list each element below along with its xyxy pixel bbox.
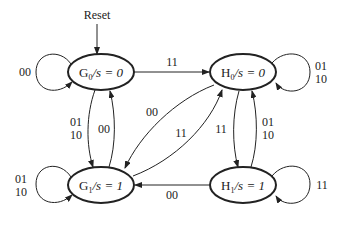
g0-output: /s = 0 [91, 65, 123, 80]
state-h0: H0/s = 0 [210, 54, 276, 90]
g0-self-label: 00 [19, 65, 31, 79]
g0-to-g1-arrow [88, 90, 95, 167]
h0-to-g1-label: 00 [146, 105, 158, 119]
g0-to-g1-label-b: 10 [70, 128, 82, 142]
h0-self-label-b: 10 [315, 72, 327, 86]
h0-to-h1-arrow [234, 91, 239, 167]
g0-name: G [79, 65, 88, 80]
h1-output: /s = 1 [233, 178, 264, 193]
h1-to-h0-label-a: 01 [262, 115, 274, 129]
h0-self-label-a: 01 [315, 59, 327, 73]
svg-text:G0/s = 0: G0/s = 0 [79, 65, 123, 82]
svg-text:H0/s = 0: H0/s = 0 [221, 65, 265, 82]
h0-output: /s = 0 [233, 65, 265, 80]
h1-to-g1-label: 00 [166, 188, 178, 202]
state-g0: G0/s = 0 [68, 54, 134, 90]
g1-to-g0-label: 00 [98, 122, 110, 136]
g1-to-h0-label: 11 [175, 126, 187, 140]
svg-text:G1/s = 1: G1/s = 1 [79, 178, 123, 195]
state-h1: H1/s = 1 [210, 167, 276, 203]
h1-to-h0-label-b: 10 [262, 128, 274, 142]
g1-name: G [79, 178, 88, 193]
g0-self-loop [36, 54, 72, 90]
h0-name: H [221, 65, 230, 80]
g1-self-label-a: 01 [15, 172, 27, 186]
h1-self-loop [272, 166, 310, 203]
g0-to-h0-label: 11 [166, 55, 178, 69]
reset-label: Reset [84, 8, 111, 22]
g0-to-g1-label-a: 01 [70, 115, 82, 129]
h1-self-label: 11 [316, 178, 328, 192]
g1-self-label-b: 10 [15, 185, 27, 199]
h1-to-h0-arrow [251, 91, 256, 167]
h0-self-loop [272, 54, 310, 91]
state-g1: G1/s = 1 [68, 167, 134, 203]
h0-to-h1-label: 11 [215, 122, 227, 136]
svg-text:H1/s = 1: H1/s = 1 [221, 178, 265, 195]
h1-name: H [221, 178, 230, 193]
g1-output: /s = 1 [91, 178, 122, 193]
state-diagram: Reset 00 11 01 10 00 01 10 00 11 11 01 1… [0, 0, 348, 225]
g1-self-loop [36, 166, 72, 202]
